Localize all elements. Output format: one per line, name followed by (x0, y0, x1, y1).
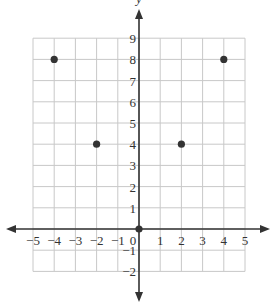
x-tick-label: −4 (47, 233, 61, 248)
x-tick-label: 3 (199, 233, 206, 248)
x-axis-right-arrow-icon (260, 225, 270, 233)
y-tick-label: 7 (130, 74, 137, 89)
y-tick-label: 4 (130, 137, 137, 152)
x-axis-left-arrow-icon (6, 225, 16, 233)
x-tick-label: −3 (68, 233, 82, 248)
y-axis-up-arrow-icon (135, 9, 143, 19)
data-point (93, 141, 100, 148)
coordinate-plane: y −5−4−3−2−1012345−2−1123456789 (0, 0, 276, 308)
y-tick-label: −2 (122, 264, 136, 279)
x-tick-label: 5 (242, 233, 249, 248)
x-tick-label: −5 (26, 233, 40, 248)
x-tick-label: −2 (90, 233, 104, 248)
data-point (51, 56, 58, 63)
y-tick-label: 1 (130, 201, 137, 216)
axes: y (6, 0, 270, 302)
y-tick-label: 9 (130, 31, 137, 46)
x-tick-label: 4 (221, 233, 228, 248)
y-tick-label: 6 (130, 95, 137, 110)
y-tick-label: 2 (130, 180, 137, 195)
y-axis-down-arrow-icon (135, 292, 143, 302)
tick-labels: −5−4−3−2−1012345−2−1123456789 (26, 31, 248, 279)
y-axis-label: y (134, 0, 142, 6)
data-point (178, 141, 185, 148)
y-tick-label: 8 (130, 52, 137, 67)
y-tick-label: 5 (130, 116, 137, 131)
data-point (220, 56, 227, 63)
y-tick-label: −1 (122, 243, 136, 258)
data-point (135, 225, 142, 232)
x-tick-label: 2 (178, 233, 185, 248)
x-tick-label: 1 (157, 233, 164, 248)
y-tick-label: 3 (130, 158, 137, 173)
